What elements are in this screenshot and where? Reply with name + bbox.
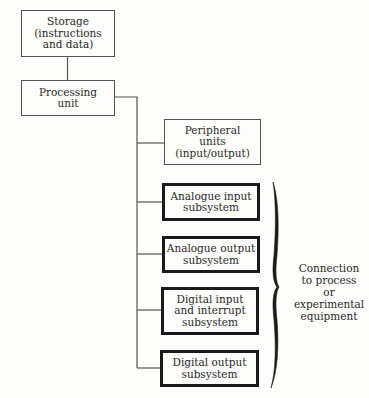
annotation-line-1: Connection: [289, 262, 369, 274]
annotation-line-4: experimental: [289, 298, 369, 310]
annotation-line-3: or: [289, 286, 369, 298]
system-block-diagram: Storage (instructions and data) Processi…: [0, 0, 369, 398]
annotation-line-2: to process: [289, 274, 369, 286]
connection-annotation: Connection to process or experimental eq…: [289, 262, 369, 322]
annotation-line-5: equipment: [289, 310, 369, 322]
brace-svg: [0, 0, 369, 398]
